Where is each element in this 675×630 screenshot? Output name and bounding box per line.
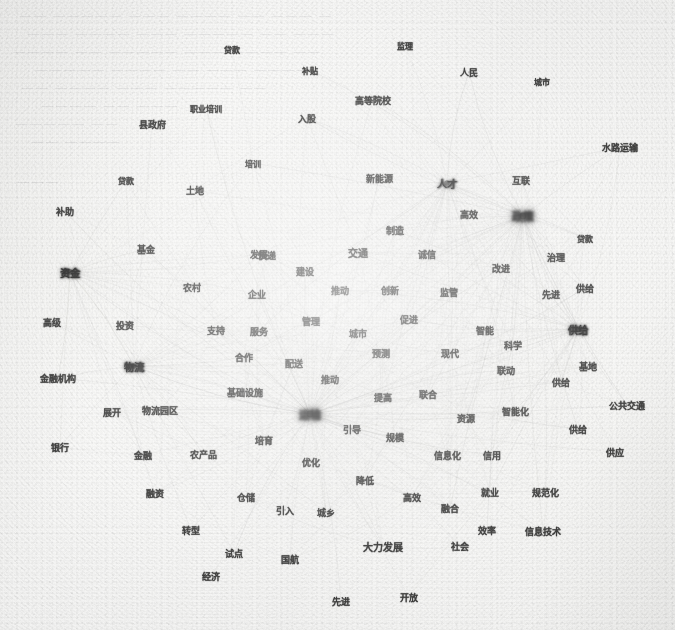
graph-node: 联动: [497, 364, 515, 377]
graph-node: 高等院校: [355, 94, 391, 107]
graph-node: 智能化: [502, 405, 529, 418]
graph-node: 供给: [552, 376, 570, 389]
graph-node: 贷款: [118, 175, 134, 186]
graph-node: 先进: [332, 595, 350, 608]
graph-node: 培训: [245, 158, 261, 169]
graph-node: 服务: [250, 325, 268, 338]
graph-node: 试点: [225, 547, 243, 560]
graph-node: 合作: [235, 351, 253, 364]
graph-node: 供应: [606, 446, 624, 459]
graph-node: 预测: [372, 347, 390, 360]
graph-node: 引入: [276, 504, 294, 517]
graph-node: 供给: [568, 322, 588, 337]
graph-node: 补助: [56, 205, 74, 218]
graph-node: 效率: [478, 524, 496, 537]
graph-node: 降低: [356, 474, 374, 487]
graph-node: 互联: [512, 174, 530, 187]
graph-node: 补贴: [302, 65, 318, 76]
graph-node: 基地: [579, 360, 597, 373]
graph-node: 智能: [476, 324, 494, 337]
graph-node: 职业培训: [190, 103, 222, 114]
graph-node: 高级: [43, 316, 61, 329]
graph-node: 交通: [348, 245, 368, 260]
graph-node: 信息技术: [525, 525, 561, 538]
graph-node: 引导: [343, 423, 361, 436]
graph-node: 城乡: [317, 506, 335, 519]
graph-node: 供给: [576, 282, 594, 295]
graph-node: 促进: [400, 313, 418, 326]
graph-node: 提高: [374, 391, 392, 404]
graph-node: 联合: [419, 388, 437, 401]
graph-node: 投资: [116, 319, 134, 332]
graph-node: 先进: [542, 288, 560, 301]
graph-node: 运输: [299, 406, 321, 422]
graph-node: 资金: [60, 265, 80, 280]
graph-node: 信用: [483, 449, 501, 462]
graph-node: 新能源: [366, 172, 393, 185]
graph-node: 监管: [440, 286, 458, 299]
graph-node: 建设: [296, 265, 314, 278]
graph-node: 仓储: [237, 491, 255, 504]
graph-node: 政策: [512, 208, 534, 224]
figure-canvas: — ——— —— ———— ——— ————— ————— —— ————— —…: [0, 0, 675, 630]
graph-node: 科学: [504, 339, 522, 352]
graph-node: 推动: [321, 373, 339, 386]
graph-node: 水路运输: [602, 141, 638, 154]
graph-node: 支持: [207, 324, 225, 337]
graph-node: 基金: [137, 243, 155, 256]
graph-node: 管理: [302, 315, 320, 328]
graph-node: 就业: [481, 486, 499, 499]
graph-node: 高效: [403, 491, 421, 504]
graph-node: 物流: [124, 359, 144, 374]
graph-node: 信息化: [434, 449, 461, 462]
graph-node: 基础设施: [227, 386, 263, 399]
graph-node: 配送: [285, 357, 303, 370]
graph-node: 社会: [451, 540, 469, 553]
graph-node: 农产品: [190, 448, 217, 461]
graph-node: 人才: [437, 176, 457, 191]
graph-node: 大力发展: [363, 539, 403, 554]
graph-node: 国航: [281, 553, 299, 566]
graph-node: 创新: [381, 284, 399, 297]
graph-node: 土地: [186, 184, 204, 197]
graph-node: 金融机构: [40, 372, 76, 385]
graph-node: 诚信: [418, 248, 436, 261]
graph-node: 公共交通: [609, 399, 645, 412]
graph-node: 展开: [103, 406, 121, 419]
graph-node: 贷款: [577, 233, 593, 244]
graph-node: 开放: [400, 591, 418, 604]
graph-node: 资源: [457, 412, 475, 425]
graph-node: 融资: [146, 487, 164, 500]
graph-node: 转型: [182, 524, 200, 537]
graph-node: 高效: [460, 208, 478, 221]
network-graph-nodes: 贷款监理补贴人民城市职业培训高等院校县政府入股水路运输培训新能源互联贷款土地人才…: [0, 0, 675, 630]
graph-node: 现代: [441, 347, 459, 360]
graph-node: 培育: [255, 434, 273, 447]
graph-node: 银行: [51, 441, 69, 454]
graph-node: 企业: [248, 288, 266, 301]
graph-node: 城市: [534, 76, 550, 87]
graph-node: 金融: [134, 449, 152, 462]
graph-node: 治理: [547, 251, 565, 264]
graph-node: 供给: [569, 423, 587, 436]
graph-node: 监理: [397, 40, 413, 51]
graph-node: 入股: [298, 112, 316, 125]
graph-node: 改进: [492, 262, 510, 275]
graph-node: 规模: [386, 431, 404, 444]
graph-node: 农村: [183, 281, 201, 294]
graph-node: 县政府: [139, 118, 166, 131]
graph-node: 制造: [386, 224, 404, 237]
graph-node: 优化: [302, 456, 320, 469]
graph-node: 快递: [258, 249, 276, 262]
graph-node: 规范化: [532, 486, 559, 499]
graph-node: 经济: [202, 570, 220, 583]
graph-node: 人民: [460, 66, 478, 79]
graph-node: 推动: [331, 284, 349, 297]
graph-node: 贷款: [224, 44, 240, 55]
graph-node: 融合: [441, 502, 459, 515]
graph-node: 物流园区: [142, 404, 178, 417]
graph-node: 城市: [349, 327, 367, 340]
